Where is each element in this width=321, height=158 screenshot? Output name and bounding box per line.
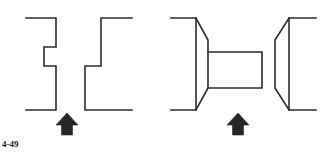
right-figure-right-flange [275, 18, 316, 110]
drawing-page: 4-49 [0, 0, 321, 158]
technical-drawing-canvas [0, 0, 321, 158]
left-figure [26, 18, 132, 110]
right-figure-left-flange [171, 18, 208, 110]
left-figure-left-profile [26, 18, 56, 110]
left-figure-right-profile [85, 18, 132, 110]
right-figure-hub [208, 52, 262, 88]
figure-number-label: 4-49 [2, 139, 19, 149]
view-direction-arrow-left [56, 113, 78, 135]
right-figure [171, 18, 316, 110]
arrow-up-icon [227, 113, 249, 135]
view-direction-arrow-right [227, 113, 249, 135]
arrow-up-icon [56, 113, 78, 135]
